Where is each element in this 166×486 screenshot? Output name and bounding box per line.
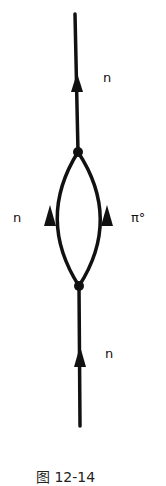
arrow-up-icon bbox=[44, 205, 56, 226]
top-vertex bbox=[73, 147, 83, 157]
incoming-neutron-line bbox=[74, 286, 86, 426]
label-loop-neutron: n bbox=[13, 211, 21, 224]
loop-left-neutron bbox=[44, 152, 79, 286]
arrow-up-icon bbox=[101, 205, 113, 226]
arrow-up-icon bbox=[74, 346, 86, 367]
figure-caption: 图 12-14 bbox=[36, 466, 95, 486]
loop-right-pion bbox=[78, 152, 113, 286]
arrow-up-icon bbox=[71, 73, 83, 92]
label-loop-pion: π° bbox=[131, 211, 145, 224]
outgoing-neutron-line bbox=[71, 14, 83, 152]
label-outgoing-neutron: n bbox=[103, 71, 111, 84]
label-incoming-neutron: n bbox=[105, 347, 113, 360]
